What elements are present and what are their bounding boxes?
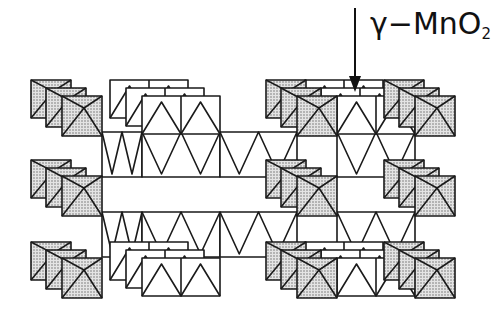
mno2-structure-diagram bbox=[0, 0, 504, 314]
compound-label: γ−MnO2 bbox=[370, 6, 491, 43]
arrow-icon bbox=[349, 8, 361, 92]
